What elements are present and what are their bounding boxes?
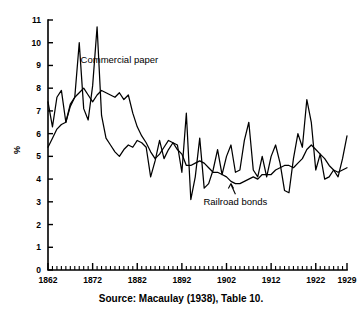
x-tick-label-1929: 1929 xyxy=(338,275,357,285)
figure-container: 01234567891011 1862187218821892190219121… xyxy=(0,0,363,317)
y-axis-title: % xyxy=(12,146,22,154)
y-tick-label-4: 4 xyxy=(36,174,41,184)
y-tick-label-10: 10 xyxy=(32,38,42,48)
x-tick-label-1872: 1872 xyxy=(83,275,102,285)
y-tick-label-7: 7 xyxy=(36,106,41,116)
x-tick-label-1892: 1892 xyxy=(172,275,191,285)
x-tick-label-1882: 1882 xyxy=(128,275,147,285)
y-tick-label-6: 6 xyxy=(36,129,41,139)
y-tick-label-9: 9 xyxy=(36,60,41,70)
figure-source-caption: Source: Macaulay (1938), Table 10. xyxy=(99,293,264,304)
series-line-commercial-paper xyxy=(48,27,347,200)
annotation-label-commercial-paper: Commercial paper xyxy=(81,54,159,65)
annotation-arrow-head xyxy=(228,184,233,189)
y-tick-label-3: 3 xyxy=(36,197,41,207)
y-tick-label-1: 1 xyxy=(36,242,41,252)
series-line-railroad-bonds xyxy=(48,88,347,183)
chart-annotations: Commercial paperRailroad bonds xyxy=(81,54,268,207)
chart-series-group xyxy=(48,27,347,200)
y-tick-label-8: 8 xyxy=(36,83,41,93)
x-tick-label-1922: 1922 xyxy=(306,275,325,285)
x-tick-label-1902: 1902 xyxy=(217,275,236,285)
x-axis-tick-labels: 18621872188218921902191219221929 xyxy=(39,275,357,285)
x-tick-label-1912: 1912 xyxy=(262,275,281,285)
y-tick-label-2: 2 xyxy=(36,220,41,230)
y-tick-label-0: 0 xyxy=(36,265,41,275)
y-axis-tick-labels: 01234567891011 xyxy=(32,15,42,275)
interest-rates-line-chart: 01234567891011 1862187218821892190219121… xyxy=(0,0,363,317)
y-tick-label-5: 5 xyxy=(36,151,41,161)
y-tick-label-11: 11 xyxy=(32,15,41,25)
annotation-label-railroad-bonds: Railroad bonds xyxy=(203,196,267,207)
x-tick-label-1862: 1862 xyxy=(39,275,58,285)
